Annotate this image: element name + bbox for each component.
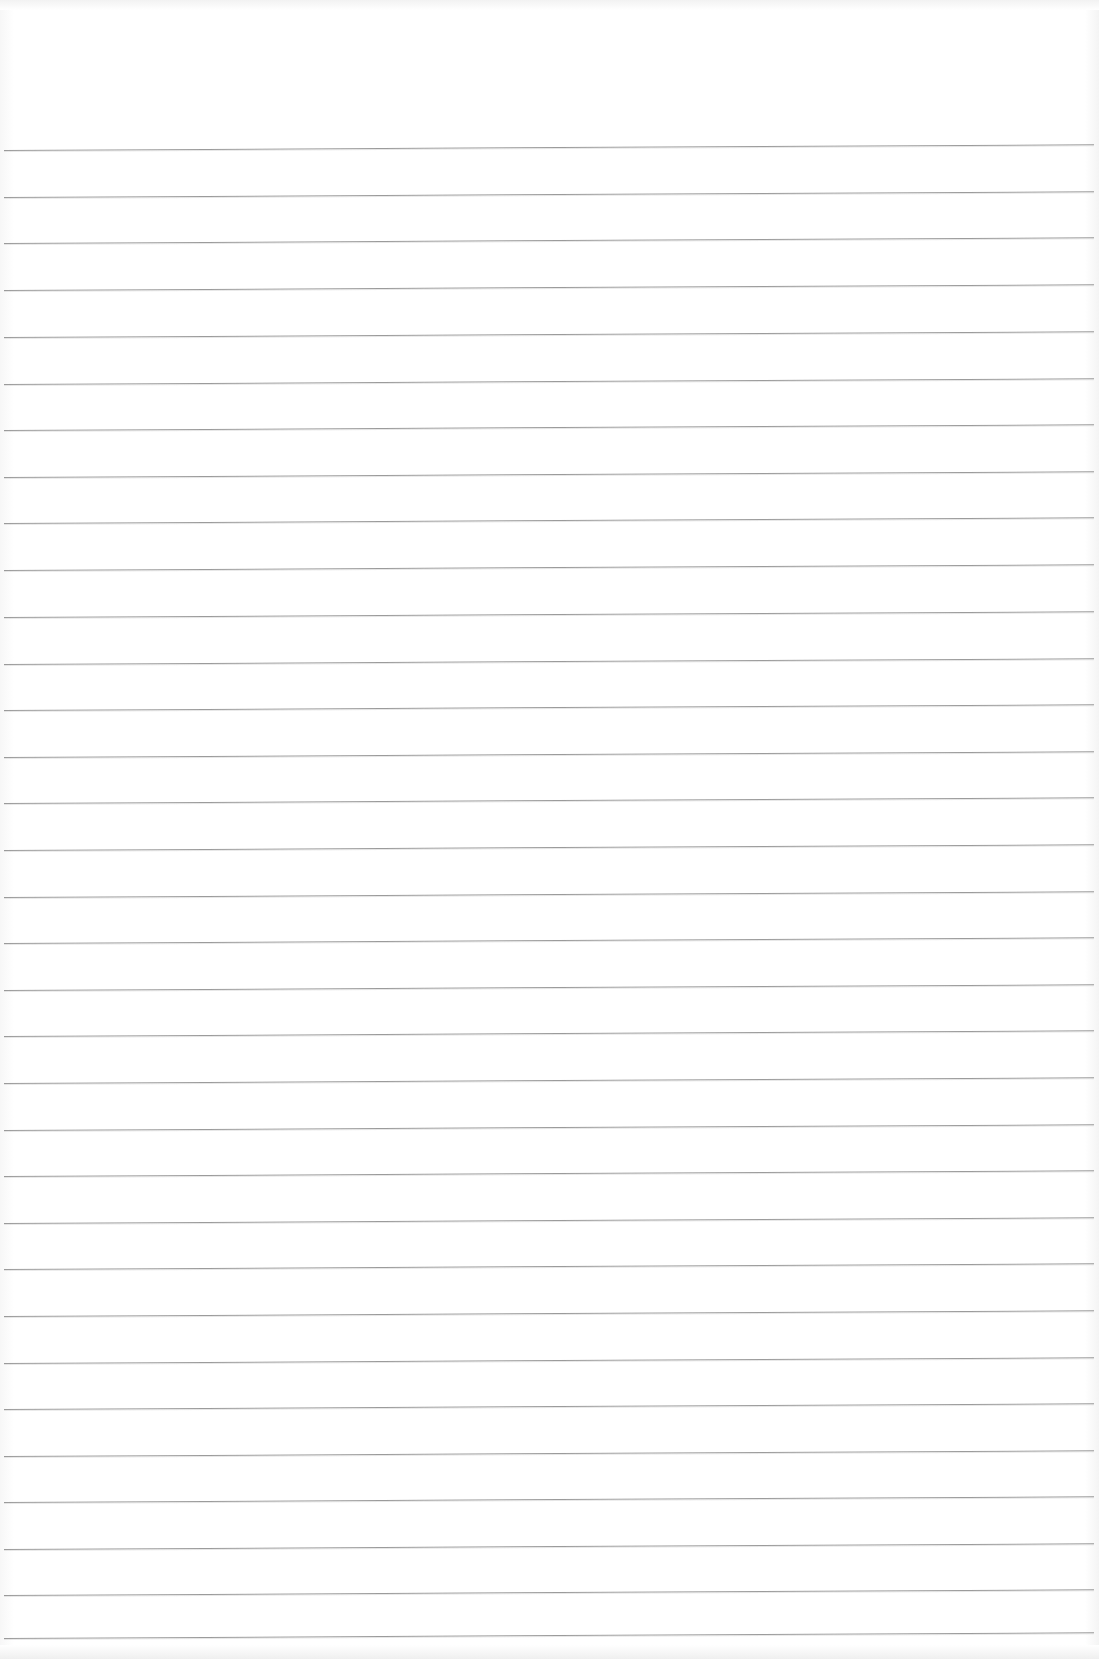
ruled-line: [4, 1263, 1094, 1270]
ruled-line: [4, 1450, 1094, 1457]
ruled-line: [4, 797, 1094, 804]
ruled-line: [4, 564, 1094, 571]
ruled-line: [4, 378, 1094, 385]
ruled-line: [4, 1357, 1094, 1364]
ruled-line: [4, 658, 1094, 665]
ruled-line: [4, 704, 1094, 711]
ruled-line: [4, 1030, 1094, 1037]
paper-bottom-edge: [0, 1645, 1099, 1659]
ruled-line: [4, 471, 1094, 478]
ruled-line: [4, 517, 1094, 524]
ruled-line: [4, 1543, 1094, 1550]
lined-paper-sheet: [0, 0, 1099, 1659]
ruled-line: [4, 1632, 1094, 1639]
ruled-line: [4, 937, 1094, 944]
ruled-line: [4, 1077, 1094, 1084]
ruled-line: [4, 424, 1094, 431]
ruled-line: [4, 751, 1094, 758]
ruled-line: [4, 284, 1094, 291]
ruled-line: [4, 1589, 1094, 1596]
ruled-line: [4, 237, 1094, 244]
ruled-line: [4, 891, 1094, 898]
ruled-line: [4, 331, 1094, 338]
ruled-line: [4, 1403, 1094, 1410]
paper-top-edge: [0, 0, 1099, 10]
ruled-line: [4, 1170, 1094, 1177]
ruled-line: [4, 984, 1094, 991]
ruled-line: [4, 611, 1094, 618]
ruled-line: [4, 1496, 1094, 1503]
ruled-line: [4, 1217, 1094, 1224]
ruled-line: [4, 844, 1094, 851]
ruled-line: [4, 1310, 1094, 1317]
ruled-line: [4, 191, 1094, 198]
ruled-line: [4, 144, 1094, 151]
ruled-line: [4, 1124, 1094, 1131]
